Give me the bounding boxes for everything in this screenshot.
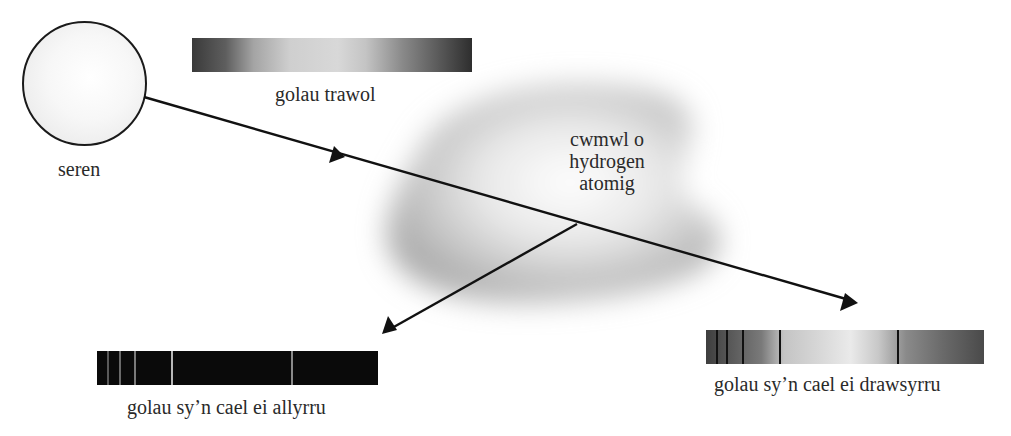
- arrowhead-icon: [382, 316, 397, 334]
- emission-spectrum-label: golau sy’n cael ei allyrru: [127, 397, 326, 417]
- emission-line: [291, 351, 293, 385]
- emission-line: [171, 351, 173, 385]
- emission-line: [107, 351, 109, 385]
- emitted-light-arrow: [382, 224, 577, 334]
- emission-line: [134, 351, 136, 385]
- absorption-line: [897, 330, 899, 364]
- absorption-line: [716, 330, 718, 364]
- incident-light-arrow: [144, 97, 858, 311]
- absorption-line: [726, 330, 728, 364]
- absorption-spectrum-label: golau sy’n cael ei drawsyrru: [714, 374, 941, 394]
- absorption-line: [779, 330, 781, 364]
- emission-spectrum: [97, 351, 378, 385]
- arrowhead-icon: [840, 293, 858, 311]
- absorption-line: [742, 330, 744, 364]
- emission-line: [119, 351, 121, 385]
- absorption-spectrum: [706, 330, 984, 364]
